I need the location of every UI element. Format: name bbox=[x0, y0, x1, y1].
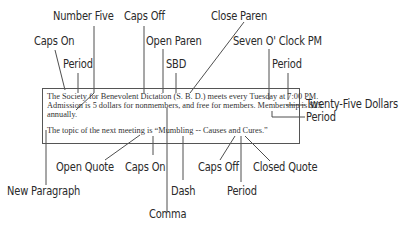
callout-number-five: Number Five bbox=[53, 10, 114, 23]
callout-closed-quote: Closed Quote bbox=[253, 161, 317, 174]
dictation-diagram: The Society for Benevolent Dictation (S.… bbox=[0, 0, 415, 234]
callout-sbd: SBD bbox=[166, 58, 186, 71]
callout-period-top-right: Period bbox=[272, 58, 302, 71]
document-line-4: The topic of the next meeting is “Mumbli… bbox=[47, 126, 268, 136]
callout-caps-on-bottom: Caps On bbox=[125, 161, 165, 174]
callout-close-paren: Close Paren bbox=[211, 10, 267, 23]
callout-seven-oclock-pm: Seven O' Clock PM bbox=[233, 35, 322, 48]
callout-caps-off-top: Caps Off bbox=[124, 10, 165, 23]
callout-dash: Dash bbox=[171, 185, 195, 198]
callout-caps-on-top: Caps On bbox=[34, 35, 74, 48]
callout-open-quote: Open Quote bbox=[56, 161, 114, 174]
callout-new-paragraph: New Paragraph bbox=[7, 185, 80, 198]
callout-period-top-left: Period bbox=[63, 58, 93, 71]
document-line-2: Admission is 5 dollars for nonmembers, a… bbox=[47, 101, 322, 111]
callout-comma: Comma bbox=[149, 208, 186, 221]
callout-period-right: Period bbox=[306, 111, 336, 124]
callout-caps-off-bottom: Caps Off bbox=[198, 161, 239, 174]
callout-period-bottom: Period bbox=[227, 185, 257, 198]
document-line-3: annually. bbox=[47, 110, 77, 120]
callout-open-paren: Open Paren bbox=[146, 35, 202, 48]
